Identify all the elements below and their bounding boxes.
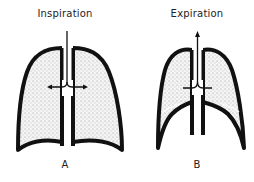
right-lung-a [73,48,122,150]
left-lung-a [18,48,62,150]
expiration-lungs [158,31,244,148]
right-lung-b [203,50,244,148]
panel-letter-a: A [55,159,75,170]
left-lung-b [158,50,192,148]
inspiration-lungs [18,31,122,150]
lung-diagrams [0,0,254,182]
panel-letter-b: B [187,159,207,170]
arrow-up-icon [195,31,200,37]
